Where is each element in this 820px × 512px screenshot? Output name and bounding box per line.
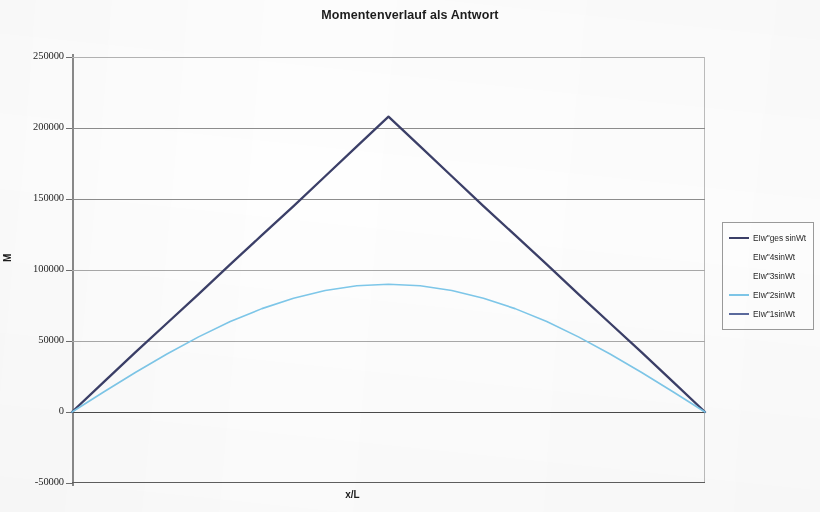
legend-item-label: EIw"1sinWt — [753, 309, 795, 319]
legend-item[interactable]: EIw"1sinWt — [726, 304, 810, 323]
y-axis-tick-label: -50000 — [6, 476, 64, 487]
chart-curves — [72, 57, 705, 483]
plot-area — [72, 57, 705, 483]
legend-item[interactable]: EIw"3sinWt — [726, 266, 810, 285]
chart-title: Momentenverlauf als Antwort — [0, 8, 820, 22]
y-axis-tick-label: 50000 — [6, 334, 64, 345]
y-axis-tick-label: 100000 — [6, 263, 64, 274]
y-axis-tick-label: 0 — [6, 405, 64, 416]
y-axis-title: M — [2, 254, 13, 262]
series-line — [72, 117, 705, 412]
chart-legend: EIw"ges sinWtEIw"4sinWtEIw"3sinWtEIw"2si… — [722, 222, 814, 330]
legend-item-label: EIw"3sinWt — [753, 271, 795, 281]
legend-swatch-icon — [728, 308, 750, 319]
y-axis-tick-label: 150000 — [6, 192, 64, 203]
legend-swatch-icon — [728, 270, 750, 281]
legend-item[interactable]: EIw"ges sinWt — [726, 228, 810, 247]
legend-swatch-icon — [728, 232, 750, 243]
legend-swatch-icon — [728, 251, 750, 262]
y-axis-tick-label: 250000 — [6, 50, 64, 61]
legend-item[interactable]: EIw"2sinWt — [726, 285, 810, 304]
series-line — [72, 284, 705, 412]
y-axis-tick-label: 200000 — [6, 121, 64, 132]
chart-page: Momentenverlauf als Antwort M x/L 250000… — [0, 0, 820, 512]
legend-swatch-icon — [728, 289, 750, 300]
x-axis-title: x/L — [0, 489, 705, 500]
legend-item-label: EIw"ges sinWt — [753, 233, 806, 243]
legend-item[interactable]: EIw"4sinWt — [726, 247, 810, 266]
y-axis-tick-mark — [66, 483, 73, 484]
legend-item-label: EIw"4sinWt — [753, 252, 795, 262]
legend-item-label: EIw"2sinWt — [753, 290, 795, 300]
